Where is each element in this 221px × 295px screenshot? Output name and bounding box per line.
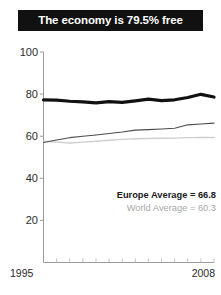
legend-item-europe-average: Europe Average = 66.8 (98, 189, 216, 202)
plot-svg (0, 0, 221, 295)
y-tick-label: 40 (8, 173, 38, 184)
y-tick-label: 20 (8, 215, 38, 226)
x-axis-start-label: 1995 (10, 268, 33, 279)
y-tick-label: 60 (8, 131, 38, 142)
plot-area: 20406080100 1995 2008 Europe Average = 6… (0, 0, 221, 295)
series-line-country (44, 94, 215, 103)
chart-figure: The economy is 79.5% free 20406080100 19… (0, 0, 221, 295)
legend-item-world-average: World Average = 60.3 (98, 202, 216, 215)
y-tick-marks (40, 52, 44, 220)
series-layer (44, 94, 215, 143)
legend: Europe Average = 66.8 World Average = 60… (98, 189, 216, 215)
x-tick-marks (44, 258, 215, 263)
y-tick-label: 100 (8, 47, 38, 58)
y-tick-label: 80 (8, 89, 38, 100)
x-axis-end-label: 2008 (192, 268, 215, 279)
